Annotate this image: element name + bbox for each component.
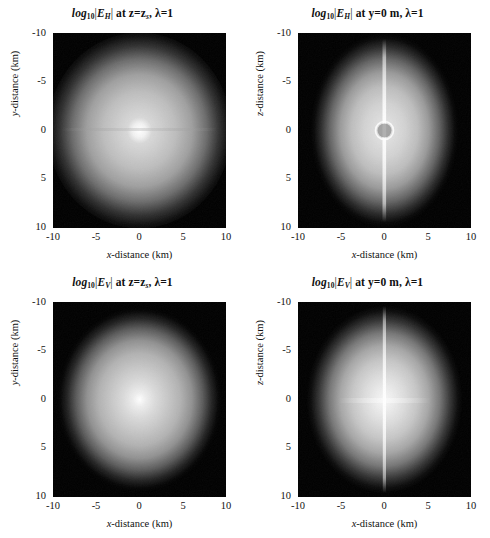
heatmap-bottom-left: [53, 302, 226, 497]
y-tick-bottom-right-2: 0: [245, 394, 291, 404]
x-axis-label-top-left: x-distance (km): [53, 249, 226, 260]
x-tick-bottom-right-3: 5: [408, 501, 448, 511]
x-tick-bottom-right-2: 0: [364, 501, 404, 511]
y-tick-bottom-right-3: 5: [245, 442, 291, 452]
title-base-top-left: 10: [87, 12, 95, 21]
x-tick-bottom-left-4: 10: [206, 501, 246, 511]
y-tick-top-left-2: 0: [0, 125, 46, 135]
y-tick-bottom-left-4: 10: [0, 491, 46, 501]
y-tick-top-right-0: -10: [245, 28, 291, 38]
title-lambda-top-left: , λ=1: [149, 7, 173, 19]
x-axis-label-bottom-left: x-distance (km): [53, 518, 226, 529]
y-tick-top-left-4: 10: [0, 222, 46, 232]
title-lambda-bottom-left: , λ=1: [149, 276, 173, 288]
y-tick-group-bottom-right: -10 -5 0 5 10: [245, 269, 295, 509]
title-condition-bottom-right: at y=0 m: [355, 276, 399, 288]
title-field-bottom-left: E: [97, 276, 105, 288]
x-tick-top-right-0: -10: [278, 232, 318, 242]
y-tick-bottom-left-1: -5: [0, 345, 46, 355]
title-lambda-bottom-right: , λ=1: [399, 276, 423, 288]
title-condition-top-right: at y=0 m: [356, 7, 400, 19]
heatmap-bottom-right: [298, 302, 471, 497]
heatmap-top-right: [298, 33, 471, 228]
x-tick-top-left-1: -5: [76, 232, 116, 242]
field-image-bottom-left: [53, 302, 226, 497]
y-axis-label-top-left: y-distance (km): [9, 29, 20, 139]
x-tick-top-right-4: 10: [451, 232, 490, 242]
y-tick-group-top-left: -10 -5 0 5 10: [0, 0, 50, 240]
title-condition-top-left: at z=z: [116, 7, 146, 19]
x-tick-top-left-0: -10: [33, 232, 73, 242]
x-axis-label-bottom-right: x-distance (km): [298, 518, 471, 529]
title-field-bottom-right: E: [337, 276, 345, 288]
x-tick-bottom-right-0: -10: [278, 501, 318, 511]
y-axis-label-bottom-left: y-distance (km): [9, 298, 20, 408]
x-tick-top-left-3: 5: [163, 232, 203, 242]
title-field-top-left: E: [97, 7, 105, 19]
y-tick-bottom-left-3: 5: [0, 442, 46, 452]
y-tick-bottom-right-4: 10: [245, 491, 291, 501]
panel-top-left: log10|EH| at z=zs, λ=1: [0, 0, 245, 269]
x-tick-top-right-3: 5: [408, 232, 448, 242]
y-axis-label-top-right: z-distance (km): [254, 29, 265, 139]
x-tick-top-left-2: 0: [119, 232, 159, 242]
title-log-bottom-left: log: [72, 276, 87, 288]
title-base-top-right: 10: [326, 12, 334, 21]
title-condition-bottom-left: at z=z: [116, 276, 146, 288]
y-tick-bottom-right-1: -5: [245, 345, 291, 355]
x-tick-bottom-left-2: 0: [119, 501, 159, 511]
title-lambda-top-right: , λ=1: [399, 7, 423, 19]
panel-bottom-right: log10|EV| at y=0 m, λ=1: [245, 269, 490, 538]
x-axis-label-top-right: x-distance (km): [298, 249, 471, 260]
panel-top-right: log10|EH| at y=0 m, λ=1: [245, 0, 490, 269]
y-tick-group-bottom-left: -10 -5 0 5 10: [0, 269, 50, 509]
field-image-bottom-right: [298, 302, 471, 497]
y-tick-top-left-1: -5: [0, 76, 46, 86]
y-tick-top-right-1: -5: [245, 76, 291, 86]
y-tick-top-left-0: -10: [0, 28, 46, 38]
x-tick-bottom-right-1: -5: [321, 501, 361, 511]
heatmap-top-left: [53, 33, 226, 228]
field-image-top-left: [53, 33, 226, 228]
y-tick-top-left-3: 5: [0, 173, 46, 183]
title-log-bottom-right: log: [312, 276, 327, 288]
y-tick-group-top-right: -10 -5 0 5 10: [245, 0, 295, 240]
y-tick-bottom-left-0: -10: [0, 297, 46, 307]
y-tick-bottom-right-0: -10: [245, 297, 291, 307]
title-base-bottom-left: 10: [87, 281, 95, 290]
x-tick-top-right-2: 0: [364, 232, 404, 242]
panel-bottom-left: log10|EV| at z=zs, λ=1: [0, 269, 245, 538]
y-tick-top-right-3: 5: [245, 173, 291, 183]
y-axis-label-bottom-right: z-distance (km): [254, 298, 265, 408]
x-tick-top-left-4: 10: [206, 232, 246, 242]
x-tick-top-right-1: -5: [321, 232, 361, 242]
x-tick-bottom-right-4: 10: [451, 501, 490, 511]
x-tick-bottom-left-3: 5: [163, 501, 203, 511]
x-tick-bottom-left-1: -5: [76, 501, 116, 511]
y-tick-top-right-2: 0: [245, 125, 291, 135]
x-tick-bottom-left-0: -10: [33, 501, 73, 511]
title-base-bottom-right: 10: [327, 281, 335, 290]
figure-grid: log10|EH| at z=zs, λ=1: [0, 0, 490, 538]
title-log-top-right: log: [311, 7, 326, 19]
field-image-top-right: [298, 33, 471, 228]
y-tick-top-right-4: 10: [245, 222, 291, 232]
y-tick-bottom-left-2: 0: [0, 394, 46, 404]
title-log-top-left: log: [72, 7, 87, 19]
